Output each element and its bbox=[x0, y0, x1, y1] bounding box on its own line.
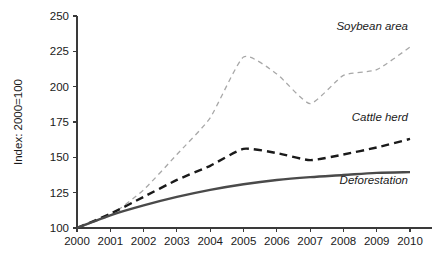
axes-layer bbox=[73, 16, 432, 232]
y-tick-label: 150 bbox=[50, 151, 69, 163]
line-chart-plot: 1001251501752002252502000200120022003200… bbox=[0, 0, 442, 260]
chart-figure: 1001251501752002252502000200120022003200… bbox=[0, 0, 442, 260]
x-tick-label: 2002 bbox=[131, 235, 157, 247]
y-tick-label: 175 bbox=[50, 116, 69, 128]
series-layer bbox=[77, 47, 410, 228]
x-tick-label: 2008 bbox=[331, 235, 357, 247]
x-tick-label: 2003 bbox=[164, 235, 190, 247]
x-tick-label: 2005 bbox=[231, 235, 257, 247]
y-tick-label: 100 bbox=[50, 222, 69, 234]
y-tick-label: 250 bbox=[50, 10, 69, 22]
tick-labels-layer: 1001251501752002252502000200120022003200… bbox=[50, 10, 423, 247]
series-label-soybean-area: Soybean area bbox=[336, 20, 408, 32]
x-tick-label: 2006 bbox=[264, 235, 290, 247]
series-labels-layer: Soybean areaCattle herdDeforestation bbox=[336, 20, 408, 186]
series-line-soybean-area bbox=[77, 47, 410, 228]
x-tick-label: 2007 bbox=[297, 235, 323, 247]
x-tick-label: 2009 bbox=[364, 235, 390, 247]
y-axis-title-layer: Index: 2000=100 bbox=[12, 79, 24, 165]
series-label-cattle-herd: Cattle herd bbox=[352, 111, 409, 123]
x-tick-label: 2010 bbox=[397, 235, 423, 247]
y-tick-label: 125 bbox=[50, 187, 69, 199]
x-tick-label: 2001 bbox=[98, 235, 124, 247]
x-tick-label: 2004 bbox=[197, 235, 223, 247]
y-tick-label: 200 bbox=[50, 81, 69, 93]
x-tick-label: 2000 bbox=[64, 235, 90, 247]
y-tick-label: 225 bbox=[50, 45, 69, 57]
series-label-deforestation: Deforestation bbox=[340, 174, 408, 186]
y-axis-title: Index: 2000=100 bbox=[12, 79, 24, 165]
